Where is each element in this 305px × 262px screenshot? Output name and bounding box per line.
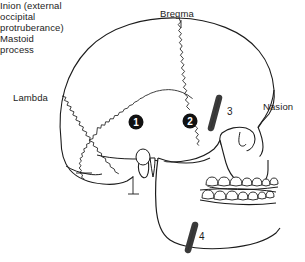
circle-marker-1-number: 1 (133, 117, 139, 128)
skull-diagram: 1 2 Bregma Lambda Nasion Inion (external… (0, 0, 305, 262)
styloid-process (150, 158, 155, 177)
occipital-outline (61, 140, 133, 184)
circle-marker-2-number: 2 (187, 116, 193, 127)
circle-marker-1: 1 (129, 115, 144, 130)
label-nasion: Nasion (263, 101, 293, 112)
nasal-bone (257, 127, 263, 159)
label-bregma: Bregma (160, 8, 194, 19)
rod-marker-4-number: 4 (199, 231, 205, 242)
label-lambda: Lambda (13, 92, 48, 103)
external-auditory-meatus (136, 149, 150, 165)
circle-marker-2: 2 (183, 114, 198, 129)
rod-marker-3-number: 3 (227, 106, 233, 117)
cranial-vault-outline (60, 18, 274, 140)
skull-illustration: 1 2 (0, 0, 305, 262)
